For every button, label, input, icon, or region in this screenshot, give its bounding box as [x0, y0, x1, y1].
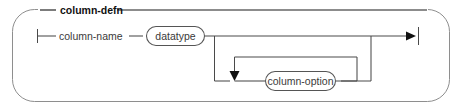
end-terminal: [406, 27, 419, 45]
node-datatype: datatype: [147, 27, 205, 46]
arrow-right-icon: [406, 32, 416, 41]
node-label-column-name: column-name: [59, 30, 123, 42]
node-label-datatype: datatype: [155, 30, 195, 42]
optional-loop-group: column-option: [215, 36, 372, 91]
node-column-option: column-option: [266, 72, 336, 91]
start-terminal: [38, 29, 57, 43]
arrow-down-icon: [230, 71, 240, 81]
railroad-diagram: column-defn column-name datatype: [0, 0, 462, 111]
production-title: column-defn: [60, 4, 123, 16]
railroad-diagram-canvas: column-defn column-name datatype: [0, 0, 462, 111]
node-column-name: column-name: [59, 30, 143, 42]
node-label-column-option: column-option: [268, 75, 334, 87]
production-frame: [13, 10, 450, 102]
